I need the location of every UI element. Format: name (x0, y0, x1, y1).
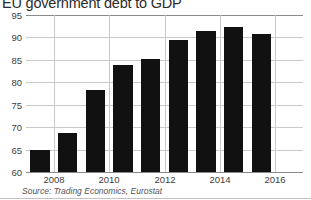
y-tick-label-70: 70 (11, 122, 22, 133)
bar-2008 (58, 133, 77, 172)
y-tick-label-90: 90 (11, 32, 22, 43)
x-tick-label-2008: 2008 (43, 174, 64, 185)
bar-2014 (224, 27, 243, 172)
chart-figure: EU government debt to GDP 60657075808590… (0, 0, 311, 200)
x-tick-label-2014: 2014 (209, 174, 230, 185)
bar-2007 (30, 150, 49, 172)
bar-series (26, 15, 303, 172)
bar-2012 (169, 40, 188, 172)
x-tick-label-2012: 2012 (154, 174, 175, 185)
x-tick-label-2016: 2016 (264, 174, 285, 185)
y-tick-label-65: 65 (11, 145, 22, 156)
y-tick-label-80: 80 (11, 77, 22, 88)
y-tick-label-95: 95 (11, 10, 22, 21)
x-tick-label-2010: 2010 (98, 174, 119, 185)
bar-2013 (196, 31, 215, 172)
bar-2010 (113, 65, 132, 172)
bar-2009 (86, 90, 105, 172)
bar-2011 (141, 59, 160, 172)
y-tick-label-85: 85 (11, 55, 22, 66)
y-tick-label-60: 60 (11, 167, 22, 178)
bottom-rule (0, 198, 311, 199)
y-tick-label-75: 75 (11, 100, 22, 111)
gridline-y-60 (26, 172, 303, 173)
source-note: Source: Trading Economics, Eurostat (22, 186, 162, 196)
bar-2015 (252, 34, 271, 172)
chart-title: EU government debt to GDP (2, 0, 182, 11)
